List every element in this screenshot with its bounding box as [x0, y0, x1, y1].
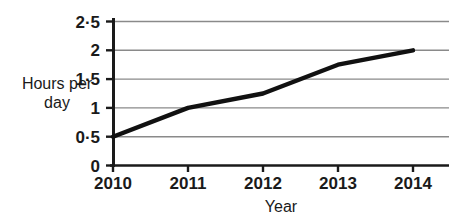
y-tick-label-2: 2 [91, 41, 100, 60]
y-tick-label-0: 0 [91, 157, 100, 176]
x-tick-label-2014: 2014 [394, 174, 432, 193]
chart-canvas: 2·5 2 1·5 1 0·5 0 2010 2011 2012 2013 20… [0, 0, 472, 223]
x-axis-title: Year [265, 198, 298, 215]
y-tick-label-0-5: 0·5 [75, 128, 100, 147]
x-tick-label-2012: 2012 [244, 174, 282, 193]
x-tick-label-2013: 2013 [319, 174, 357, 193]
x-tick-label-2010: 2010 [94, 174, 132, 193]
line-chart-figure: 2·5 2 1·5 1 0·5 0 2010 2011 2012 2013 20… [0, 0, 472, 223]
x-tick-label-2011: 2011 [170, 174, 207, 193]
y-axis-title-line2: day [44, 94, 70, 111]
y-axis-title-line1: Hours per [22, 75, 93, 92]
y-tick-label-1: 1 [91, 99, 100, 118]
y-tick-label-2-5: 2·5 [75, 13, 100, 32]
